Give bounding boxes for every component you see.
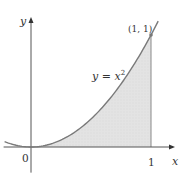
point-label: (1, 1) bbox=[128, 24, 152, 34]
function-label: y = x2 bbox=[91, 69, 125, 83]
function-label-base: y = x bbox=[91, 70, 121, 83]
x-axis-label: x bbox=[172, 155, 179, 168]
parabola-area-figure: y x 0 1 (1, 1) y = x2 bbox=[0, 0, 180, 188]
x-tick-label-1: 1 bbox=[148, 156, 155, 168]
origin-label: 0 bbox=[22, 152, 29, 164]
function-label-exponent: 2 bbox=[121, 69, 125, 77]
y-axis-label: y bbox=[19, 15, 27, 28]
shaded-region bbox=[31, 35, 151, 147]
x-axis-arrow-icon bbox=[169, 145, 175, 150]
y-axis-arrow-icon bbox=[29, 17, 34, 23]
